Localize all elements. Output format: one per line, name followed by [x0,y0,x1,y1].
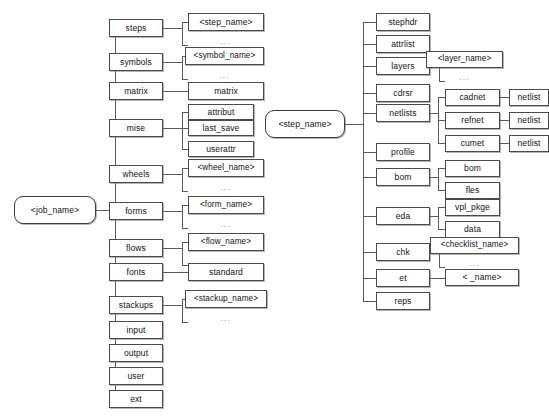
connector-netlists-cumet [438,143,445,144]
node-last-save[interactable]: last_save [188,120,254,136]
node-fles[interactable]: fles [445,182,500,199]
node-bom[interactable]: bom [376,168,430,186]
connector-flows-to-child [163,248,182,249]
connector-bom-fles [438,190,445,191]
node-wheels[interactable]: wheels [109,165,163,183]
connector-netlists-cadnet [438,97,445,98]
connector-refnet-to-netlist [500,120,509,121]
connector-step-branch-attrlist [363,44,376,45]
node-matrix[interactable]: matrix [109,82,163,100]
node-data[interactable]: data [445,221,500,238]
node-refnet[interactable]: refnet [445,112,500,129]
node-job-name[interactable]: <job_name> [14,196,96,224]
node-flows[interactable]: flows [109,239,163,257]
connector-cadnet-to-netlist [500,97,509,98]
node-input[interactable]: input [109,321,163,339]
connector-matrix-to-child [163,91,188,92]
node-symbols[interactable]: symbols [109,53,163,71]
node-forms[interactable]: forms [109,202,163,220]
node-stackups[interactable]: stackups [109,296,163,314]
connector-step-spine [363,22,364,301]
node-attribut[interactable]: attribut [188,104,254,120]
node-eda[interactable]: eda [376,207,430,225]
ellipsis-steps: ... [188,38,264,46]
node-symbol-name[interactable]: <symbol_name> [185,47,264,65]
node-et-name[interactable]: < _name> [445,269,519,286]
node-netlist-cumet[interactable]: netlist [509,135,549,152]
connector-eda-spine [438,207,439,229]
node-checklist-name[interactable]: <checklist_name> [430,237,519,254]
connector-step-branch-profile [363,152,376,153]
node-stephdr[interactable]: stephdr [376,13,430,31]
node-matrix-file[interactable]: matrix [188,82,264,100]
connector-forms-to-child [163,211,182,212]
ellipsis-symbols: ... [185,72,264,80]
connector-step-branch-chk [363,252,376,253]
node-step-name-root[interactable]: <step_name> [265,110,345,138]
node-layers[interactable]: layers [376,57,430,75]
node-reps[interactable]: reps [376,292,430,310]
connector-eda-vplpkge [438,207,445,208]
node-user[interactable]: user [109,367,163,385]
node-mise[interactable]: mise [109,119,163,137]
connector-step-branch-cdrsr [363,93,376,94]
ellipsis-forms: ... [188,221,264,229]
connector-bom-spine [438,168,439,190]
connector-bom-bomfile [438,168,445,169]
connector-mise-to-children [163,128,182,129]
connector-et-to-child [430,278,445,279]
ellipsis-wheels: ... [188,184,264,192]
node-chk[interactable]: chk [376,243,430,261]
node-ext[interactable]: ext [109,390,163,408]
connector-netlists-to-children [430,113,438,114]
connector-step-branch-layers [363,66,376,67]
node-steps[interactable]: steps [109,19,163,37]
node-form-name[interactable]: <form_name> [188,196,264,214]
node-netlist-refnet[interactable]: netlist [509,112,549,129]
ellipsis-layers: ... [426,74,503,82]
connector-netlists-refnet [438,120,445,121]
node-netlists[interactable]: netlists [376,104,430,122]
node-netlist-cadnet[interactable]: netlist [509,89,549,106]
connector-eda-data [438,229,445,230]
node-output[interactable]: output [109,344,163,362]
connector-cumet-to-netlist [500,143,509,144]
tree-diagram: <job_name> steps symbols matrix mise whe… [0,0,549,416]
node-step-name[interactable]: <step_name> [188,13,264,31]
connector-bom-to-children [430,177,438,178]
node-profile[interactable]: profile [376,143,430,161]
node-fonts[interactable]: fonts [109,263,163,281]
node-stackup-name[interactable]: <stackup_name> [185,290,267,308]
connector-mise-spine [182,112,183,149]
node-bom-file[interactable]: bom [445,160,500,177]
connector-stackups-to-child [163,305,182,306]
connector-step-branch-bom [363,177,376,178]
connector-symbols-to-child [163,62,182,63]
connector-eda-to-children [430,216,438,217]
node-userattr[interactable]: userattr [188,141,254,157]
connector-wheels-to-child [163,174,182,175]
node-attrlist[interactable]: attrlist [376,35,430,53]
node-flow-name[interactable]: <flow_name> [188,233,264,251]
node-cumet[interactable]: cumet [445,135,500,152]
connector-step-branch-eda [363,216,376,217]
node-vpl-pkge[interactable]: vpl_pkge [445,199,500,216]
connector-step-root-stem [345,124,363,125]
connector-fonts-to-child [163,272,188,273]
connector-step-branch-et [363,278,376,279]
connector-steps-to-child [163,28,182,29]
node-et[interactable]: et [376,269,430,287]
node-cadnet[interactable]: cadnet [445,89,500,106]
node-standard[interactable]: standard [188,263,264,281]
ellipsis-chk: ... [430,260,519,268]
node-layer-name[interactable]: <layer_name> [426,51,503,68]
connector-step-branch-reps [363,301,376,302]
ellipsis-stackups: ... [185,315,267,323]
node-wheel-name[interactable]: <wheel_name> [188,159,264,177]
connector-step-branch-stephdr [363,22,376,23]
node-cdrsr[interactable]: cdrsr [376,84,430,102]
connector-step-branch-netlists [363,113,376,114]
